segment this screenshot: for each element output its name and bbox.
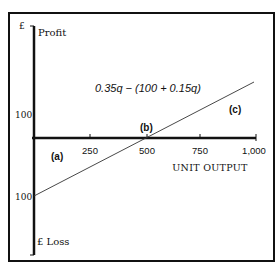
x-tick-label-750: 750 — [192, 145, 208, 156]
y-tick-label-positive: 100 — [15, 110, 32, 120]
y-label-profit: Profit — [38, 27, 66, 38]
annotation-b: (b) — [140, 122, 153, 133]
x-tick-label-1000: 1,000 — [242, 145, 266, 156]
annotation-c: (c) — [229, 104, 241, 115]
equation-label: 0.35q − (100 + 0.15q) — [95, 82, 201, 94]
x-tick-label-250: 250 — [82, 145, 98, 156]
y-tick-label-negative: 100 — [15, 192, 32, 202]
y-label-loss: £ Loss — [37, 236, 69, 247]
x-axis-label: UNIT OUTPUT — [172, 162, 248, 173]
break-even-chart: £ Profit 100 100 £ Loss 250 500 750 1,00… — [0, 0, 280, 266]
x-tick-label-500: 500 — [139, 145, 155, 156]
annotation-a: (a) — [51, 151, 63, 162]
y-currency-label: £ — [19, 21, 25, 31]
